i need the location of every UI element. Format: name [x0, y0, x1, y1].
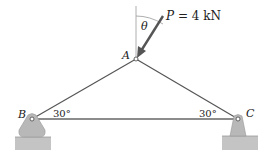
member-AC	[136, 59, 238, 119]
joint-B	[30, 117, 34, 121]
joint-A	[134, 57, 138, 61]
ground-B	[15, 137, 51, 150]
truss-diagram: θ P = 4 kN A B 30° C 30°	[0, 0, 268, 154]
angle-B-label: 30°	[53, 108, 71, 119]
angle-C-label: 30°	[199, 108, 217, 119]
theta-label: θ	[141, 20, 148, 33]
joint-C-label: C	[246, 107, 255, 120]
load-label: P = 4 kN	[165, 9, 221, 23]
joint-C	[236, 117, 240, 121]
joint-B-label: B	[17, 108, 26, 121]
load-arrow-head	[137, 46, 146, 58]
ground-C	[222, 136, 258, 150]
joint-A-label: A	[121, 49, 130, 62]
member-AB	[32, 59, 136, 119]
